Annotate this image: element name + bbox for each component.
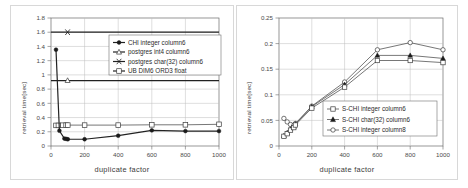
marker-open-square	[310, 106, 314, 110]
y-tick-label: 0.25	[261, 14, 274, 21]
marker-open-circle	[282, 116, 286, 120]
marker-open-square	[82, 123, 87, 128]
marker-filled-diamond	[150, 128, 154, 132]
chart-right-svg: 0 0.05 0.1 0.15 0.2 0.25 0 200 400 600 8…	[237, 6, 457, 179]
legend-marker-filled-diamond	[117, 41, 121, 45]
legend-left: CHI integer column6 postgres int4 column…	[109, 35, 221, 75]
legend-right: S-CHI integer column6 S-CHI char(32) col…	[323, 101, 437, 136]
figure-container: 0 0.2 0.4 0.6 0.8 1 1.2 1.4 1.6 1.8 0	[0, 0, 468, 188]
marker-open-square	[441, 60, 445, 64]
x-axis-title: duplicate factor	[11, 165, 233, 174]
marker-filled-diamond	[66, 137, 70, 141]
y-axis-left: 0 0.2 0.4 0.6 0.8 1 1.2 1.4 1.6 1.8	[36, 14, 51, 149]
x-tick-label: 600	[372, 151, 383, 158]
y-tick-label: 0.15	[261, 65, 274, 72]
marker-open-square	[56, 123, 61, 128]
legend-marker-open-square	[331, 107, 335, 111]
x-axis-right: 0 200 400 600 800 1000	[277, 146, 450, 158]
marker-open-square	[183, 123, 188, 128]
y-tick-label: 0.6	[36, 100, 45, 107]
x-tick-label: 1000	[436, 151, 450, 158]
marker-filled-diamond	[54, 48, 58, 52]
legend-label: S-CHI integer column8	[342, 126, 406, 134]
y-tick-label: 1.4	[36, 43, 45, 50]
marker-filled-diamond	[184, 129, 188, 133]
y-axis-title: retrieval time[sec]	[245, 82, 252, 134]
legend-label: UB DIM6 ORD3 float	[128, 67, 187, 74]
y-axis-title: retrieval time[sec]	[20, 82, 27, 134]
x-tick-label: 400	[113, 151, 124, 158]
marker-open-square	[116, 123, 121, 128]
legend-label: CHI integer column6	[128, 39, 186, 47]
y-tick-label: 0	[42, 142, 46, 149]
x-tick-label: 0	[277, 151, 281, 158]
y-tick-label: 0.1	[264, 91, 273, 98]
x-tick-label: 200	[307, 151, 318, 158]
chart-panel-right: 0 0.05 0.1 0.15 0.2 0.25 0 200 400 600 8…	[236, 5, 458, 180]
legend-label: postgres int4 column6	[128, 48, 190, 56]
chart-panel-left: 0 0.2 0.4 0.6 0.8 1 1.2 1.4 1.6 1.8 0	[10, 5, 234, 180]
x-tick-label: 400	[339, 151, 350, 158]
x-axis-title: duplicate factor	[237, 165, 457, 174]
y-tick-label: 0.4	[36, 114, 45, 121]
y-tick-label: 1.2	[36, 57, 45, 64]
y-axis-right: 0 0.05 0.1 0.15 0.2 0.25	[261, 14, 279, 149]
x-tick-label: 800	[405, 151, 416, 158]
marker-open-square	[217, 122, 222, 127]
marker-open-square	[342, 85, 346, 89]
x-tick-label: 1000	[212, 151, 226, 158]
y-tick-label: 1.8	[36, 14, 45, 21]
marker-filled-diamond	[116, 134, 120, 138]
x-axis-left: 0 200 400 600 800 1000	[49, 146, 226, 158]
y-tick-label: 0.2	[36, 128, 45, 135]
y-tick-label: 0	[270, 142, 274, 149]
y-tick-label: 1.6	[36, 28, 45, 35]
marker-open-square	[375, 58, 379, 62]
marker-filled-diamond	[58, 129, 62, 133]
marker-open-square	[293, 123, 297, 127]
marker-open-square	[150, 123, 155, 128]
y-tick-label: 0.8	[36, 85, 45, 92]
marker-open-square	[66, 123, 71, 128]
legend-label: postgres char(32) column6	[128, 58, 203, 66]
x-tick-label: 600	[147, 151, 158, 158]
legend-label: S-CHI char(32) column6	[342, 116, 410, 124]
chart-left-svg: 0 0.2 0.4 0.6 0.8 1 1.2 1.4 1.6 1.8 0	[11, 6, 233, 179]
marker-open-circle	[375, 48, 379, 52]
marker-filled-diamond	[83, 137, 87, 141]
marker-open-circle	[441, 48, 445, 52]
x-tick-label: 200	[79, 151, 90, 158]
legend-marker-open-circle	[331, 128, 335, 132]
y-tick-label: 0.05	[261, 117, 274, 124]
x-tick-label: 0	[49, 151, 53, 158]
legend-marker-open-square	[117, 69, 122, 74]
marker-open-circle	[408, 40, 412, 44]
y-tick-label: 0.2	[264, 40, 273, 47]
y-tick-label: 1	[42, 71, 46, 78]
x-tick-label: 800	[180, 151, 191, 158]
marker-filled-diamond	[217, 129, 221, 133]
marker-open-square	[408, 58, 412, 62]
legend-label: S-CHI integer column6	[342, 105, 406, 113]
